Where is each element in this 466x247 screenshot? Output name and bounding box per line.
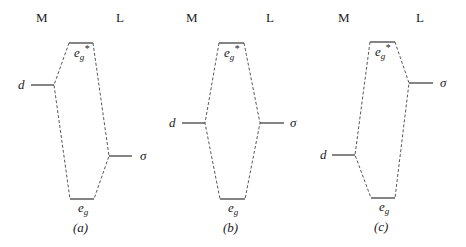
sigma-label: σ xyxy=(440,75,447,90)
caption: (c) xyxy=(374,219,388,234)
eg-star-label: eg* xyxy=(74,43,89,62)
eg-label: eg xyxy=(379,199,390,216)
ligand-correlation-line xyxy=(93,43,109,199)
panel-b: M L eg* d σ eg (b) xyxy=(169,10,297,235)
ligand-label: L xyxy=(416,10,424,25)
metal-correlation-line xyxy=(355,42,371,198)
panel-c: M L eg* σ d eg (c) xyxy=(320,10,447,234)
d-label: d xyxy=(320,147,327,162)
d-label: d xyxy=(169,115,176,130)
ligand-label: L xyxy=(266,10,274,25)
metal-correlation-line xyxy=(205,43,220,199)
ligand-correlation-line xyxy=(244,43,260,199)
sigma-label: σ xyxy=(140,148,147,163)
eg-star-label: eg* xyxy=(375,42,390,61)
metal-label: M xyxy=(338,10,350,25)
mo-diagram: M L eg* d σ eg (a) M L eg* d σ eg (b) M … xyxy=(0,0,466,247)
caption: (b) xyxy=(223,220,238,235)
eg-label: eg xyxy=(228,200,239,217)
metal-correlation-line xyxy=(54,43,70,199)
d-label: d xyxy=(18,77,25,92)
metal-label: M xyxy=(186,10,198,25)
caption: (a) xyxy=(73,220,88,235)
eg-star-label: eg* xyxy=(224,43,239,62)
panel-a: M L eg* d σ eg (a) xyxy=(18,10,147,235)
sigma-label: σ xyxy=(290,115,297,130)
ligand-label: L xyxy=(116,10,124,25)
metal-label: M xyxy=(36,10,48,25)
ligand-correlation-line xyxy=(395,42,409,198)
eg-label: eg xyxy=(78,200,89,217)
